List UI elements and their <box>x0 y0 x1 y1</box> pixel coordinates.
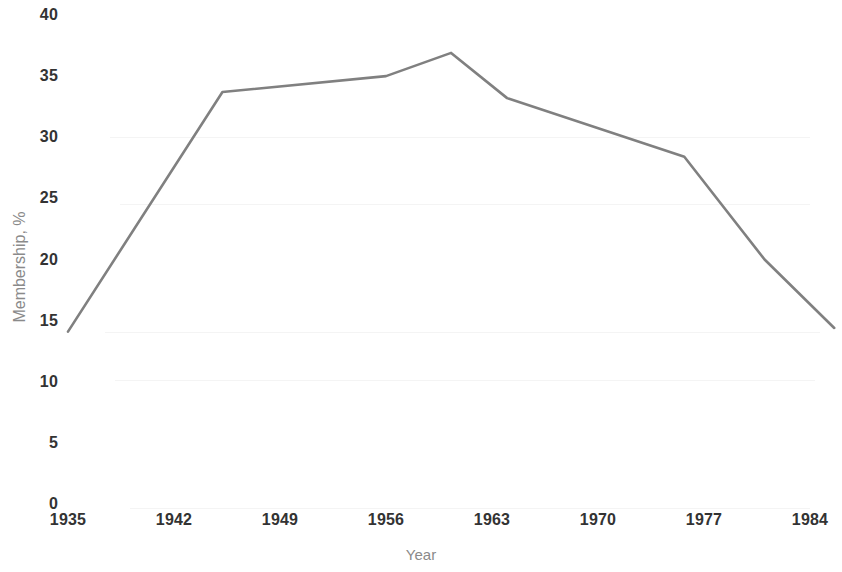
x-tick-label-1970: 1970 <box>553 511 643 529</box>
plot-area <box>0 0 842 572</box>
line-chart: 0510152025303540 Membership, % 193519421… <box>0 0 842 572</box>
x-tick-label-1963: 1963 <box>447 511 537 529</box>
x-tick-label-1949: 1949 <box>235 511 325 529</box>
x-tick-label-1942: 1942 <box>129 511 219 529</box>
x-tick-label-1935: 1935 <box>23 511 113 529</box>
x-tick-label-1956: 1956 <box>341 511 431 529</box>
x-tick-label-1984: 1984 <box>765 511 842 529</box>
x-tick-label-1977: 1977 <box>659 511 749 529</box>
x-axis-title: Year <box>0 546 842 563</box>
series-line-membership <box>68 53 834 332</box>
